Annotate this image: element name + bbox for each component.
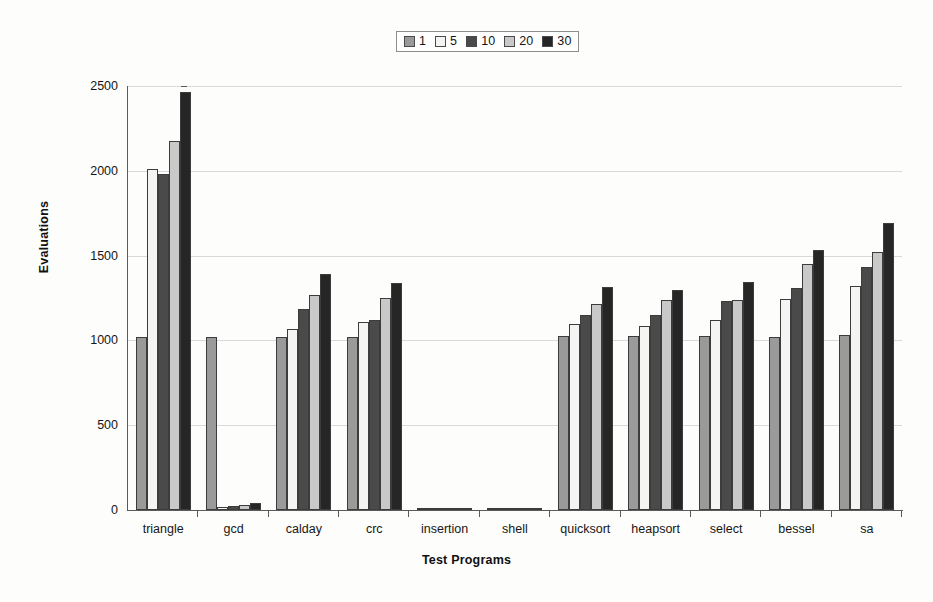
bar[interactable] <box>287 329 298 510</box>
bar[interactable] <box>169 141 180 510</box>
bar[interactable] <box>569 324 580 510</box>
x-axis-tick-cell <box>550 511 620 518</box>
bar[interactable] <box>710 320 721 510</box>
bar[interactable] <box>861 267 872 510</box>
bar[interactable] <box>732 300 743 510</box>
bar[interactable] <box>850 286 861 510</box>
bar-group <box>480 86 550 510</box>
x-axis-tick-label: sa <box>832 522 902 542</box>
bar[interactable] <box>428 508 439 510</box>
bar-group <box>128 86 198 510</box>
bar[interactable] <box>639 326 650 510</box>
bar[interactable] <box>558 336 569 510</box>
bar[interactable] <box>228 506 239 510</box>
bar[interactable] <box>147 169 158 510</box>
bar[interactable] <box>672 290 683 510</box>
legend-label: 10 <box>481 35 495 48</box>
bar[interactable] <box>439 508 450 510</box>
bar[interactable] <box>872 252 883 510</box>
bar-groups <box>128 86 902 510</box>
legend-label: 20 <box>519 35 533 48</box>
x-axis-tick-cell <box>691 511 761 518</box>
bar[interactable] <box>813 250 824 510</box>
bar[interactable] <box>883 223 894 510</box>
bar[interactable] <box>780 299 791 510</box>
bar[interactable] <box>250 503 261 510</box>
legend-entry[interactable]: 1 <box>404 35 426 48</box>
bar[interactable] <box>369 320 380 510</box>
bar[interactable] <box>628 336 639 510</box>
bar[interactable] <box>417 508 428 510</box>
bar[interactable] <box>591 304 602 510</box>
bar[interactable] <box>791 288 802 510</box>
x-axis-tick-cell <box>480 511 550 518</box>
bar-group <box>339 86 409 510</box>
bar[interactable] <box>298 309 309 510</box>
bar[interactable] <box>347 337 358 510</box>
x-axis-tick-label: quicksort <box>550 522 620 542</box>
x-axis-tick-cell <box>339 511 409 518</box>
x-axis-tick-label: select <box>691 522 761 542</box>
x-axis-tick-label: gcd <box>198 522 268 542</box>
y-axis-tick-labels: 05001000150020002500 <box>60 0 118 602</box>
bar[interactable] <box>206 337 217 510</box>
legend-entry[interactable]: 20 <box>504 35 533 48</box>
bar[interactable] <box>580 315 591 510</box>
bar[interactable] <box>531 508 542 510</box>
x-axis-tick-mark <box>901 511 902 517</box>
x-axis-tick-cell <box>198 511 268 518</box>
bar[interactable] <box>802 264 813 510</box>
bar[interactable] <box>699 336 710 510</box>
y-axis-tick-label: 2000 <box>90 164 118 178</box>
bar[interactable] <box>661 300 672 510</box>
legend-label: 5 <box>450 35 457 48</box>
bar[interactable] <box>450 508 461 510</box>
bar-group <box>269 86 339 510</box>
bar[interactable] <box>239 505 250 510</box>
bar[interactable] <box>839 335 850 510</box>
bar[interactable] <box>650 315 661 510</box>
x-axis-tick-cell <box>761 511 831 518</box>
y-axis-tick-label: 500 <box>97 418 118 432</box>
bar[interactable] <box>721 301 732 510</box>
x-axis-tick-label: calday <box>269 522 339 542</box>
bar-group <box>198 86 268 510</box>
bar[interactable] <box>309 295 320 510</box>
legend-swatch-icon <box>466 36 477 47</box>
y-axis-tick-label: 0 <box>111 503 118 517</box>
legend-swatch-icon <box>404 36 415 47</box>
x-axis-tick-cell <box>128 511 198 518</box>
y-axis-tick-label: 2500 <box>90 79 118 93</box>
y-axis-tick-label: 1500 <box>90 249 118 263</box>
legend-swatch-icon <box>504 36 515 47</box>
x-axis-tick-label: shell <box>480 522 550 542</box>
legend-entry[interactable]: 5 <box>435 35 457 48</box>
bar[interactable] <box>461 508 472 510</box>
legend-swatch-icon <box>542 36 553 47</box>
bar[interactable] <box>743 282 754 510</box>
x-axis-tick-label: insertion <box>409 522 479 542</box>
bar-group <box>550 86 620 510</box>
bar[interactable] <box>391 283 402 510</box>
x-axis-tick-cell <box>621 511 691 518</box>
x-axis-tick-marks <box>128 511 902 518</box>
bar[interactable] <box>520 508 531 510</box>
legend-entry[interactable]: 10 <box>466 35 495 48</box>
bar[interactable] <box>276 337 287 510</box>
bar[interactable] <box>769 337 780 510</box>
legend-entry[interactable]: 30 <box>542 35 571 48</box>
x-axis-tick-label: heapsort <box>621 522 691 542</box>
bar[interactable] <box>217 507 228 510</box>
bar[interactable] <box>136 337 147 510</box>
bar[interactable] <box>602 287 613 510</box>
bar[interactable] <box>358 322 369 510</box>
bar[interactable] <box>487 508 498 510</box>
bar[interactable] <box>380 298 391 510</box>
bar[interactable] <box>509 508 520 510</box>
bar[interactable] <box>158 174 169 510</box>
bar-group <box>761 86 831 510</box>
bar[interactable] <box>320 274 331 510</box>
x-axis-tick-cell <box>832 511 902 518</box>
bar[interactable] <box>180 92 191 510</box>
bar[interactable] <box>498 508 509 510</box>
